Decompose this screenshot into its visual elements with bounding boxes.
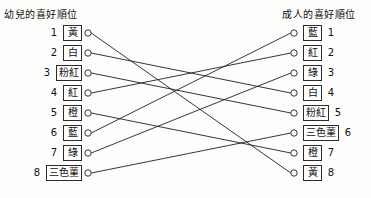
right-node-dot (291, 30, 297, 36)
left-node-dot (85, 130, 91, 136)
left-node-dot (85, 110, 91, 116)
connection-line (91, 133, 291, 173)
connection-line (91, 73, 291, 113)
right-node-dot (291, 50, 297, 56)
ranking-comparison-diagram: 幼兒的喜好順位 成人的喜好順位 1黃2白3粉紅4紅5橙6藍7綠8三色菫 藍1紅2… (0, 0, 371, 198)
right-node-dot (291, 110, 297, 116)
right-node-dot (291, 130, 297, 136)
right-node-dot (291, 70, 297, 76)
left-node-dot (85, 90, 91, 96)
left-node-dot (85, 70, 91, 76)
connection-line (91, 33, 291, 133)
connection-line (91, 33, 291, 173)
left-node-dot (85, 150, 91, 156)
left-node-dot (85, 170, 91, 176)
right-node-dot (291, 150, 297, 156)
connection-line (91, 113, 291, 153)
left-node-dot (85, 50, 91, 56)
connection-lines-layer (0, 0, 371, 198)
right-node-dot (291, 170, 297, 176)
left-node-dot (85, 30, 91, 36)
connection-line (91, 73, 291, 153)
right-node-dot (291, 90, 297, 96)
